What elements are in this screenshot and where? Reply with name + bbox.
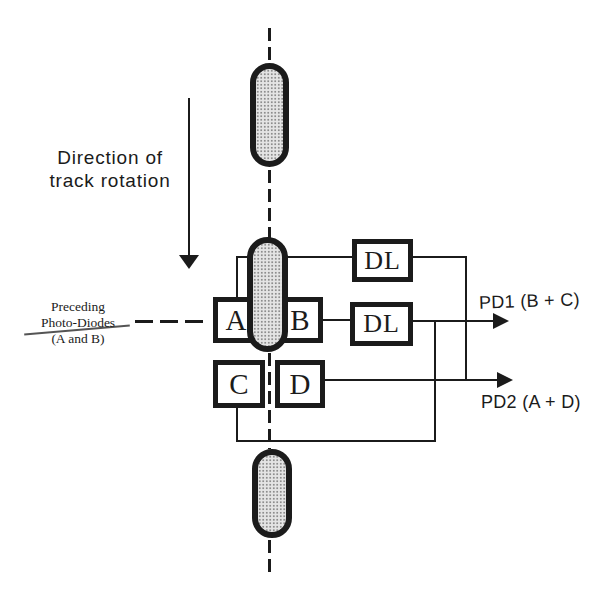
wire-a-riser xyxy=(236,257,238,298)
wire-dl1-out xyxy=(412,256,467,258)
wire-c-run xyxy=(236,440,436,442)
laser-spot-bottom xyxy=(252,449,292,538)
photodiode-c: C xyxy=(213,360,265,408)
direction-label-line2: track rotation xyxy=(28,169,192,192)
laser-spot-middle xyxy=(247,237,288,352)
track-centerline-segment-lower xyxy=(268,353,271,449)
wire-c-riser xyxy=(434,321,436,442)
pd2-arrowhead-icon xyxy=(497,372,513,388)
photodiode-a-letter: A xyxy=(226,306,247,335)
photodiode-d-letter: D xyxy=(290,370,311,399)
wire-pd2-line xyxy=(324,379,500,381)
photodiode-d: D xyxy=(275,360,325,408)
wire-pd1-line xyxy=(412,320,496,322)
direction-arrow-head-icon xyxy=(179,255,199,269)
pd1-arrowhead-icon xyxy=(493,313,509,329)
laser-spot-top xyxy=(250,63,289,167)
preceding-photodiodes-label: Preceding Photo-Diodes (A and B) xyxy=(16,299,140,347)
wire-c-drop xyxy=(236,407,238,442)
delay-line-2-label: DL xyxy=(363,311,400,337)
delay-line-1: DL xyxy=(352,239,413,282)
wire-dl1-drop xyxy=(465,256,467,381)
wire-b-to-dl2 xyxy=(322,319,351,321)
diagram-canvas: Direction of track rotation Preceding Ph… xyxy=(0,0,614,609)
track-centerline-segment-top xyxy=(268,28,271,68)
direction-label: Direction of track rotation xyxy=(28,146,192,192)
photodiode-c-letter: C xyxy=(229,370,248,399)
direction-label-line1: Direction of xyxy=(28,146,192,169)
track-centerline-segment-bottom xyxy=(268,540,271,574)
pd1-output-label: PD1 (B + C) xyxy=(479,289,580,314)
preceding-label-leader-line xyxy=(135,320,208,323)
pd2-output-label: PD2 (A + D) xyxy=(481,392,581,413)
photodiode-b-letter: B xyxy=(290,306,309,335)
delay-line-1-label: DL xyxy=(364,248,401,274)
delay-line-2: DL xyxy=(350,302,413,346)
preceding-label-line1: Preceding xyxy=(16,299,140,315)
track-centerline-segment-upper xyxy=(268,170,271,238)
